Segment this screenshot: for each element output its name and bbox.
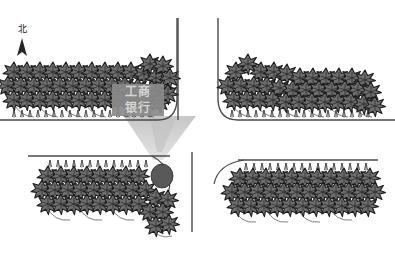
signboard: 工商 银行: [112, 84, 164, 116]
round-shrub: [151, 164, 173, 188]
tree-cluster-bottom-right: [221, 168, 385, 217]
planting-plan-canvas: 工商 银行: [0, 0, 395, 264]
signboard-line1: 工商: [125, 84, 151, 99]
canvas-background: [0, 0, 395, 264]
planting-plan-drawing: 工商 银行: [0, 0, 395, 264]
compass-label: 北: [18, 24, 27, 34]
signboard-line2: 银行: [125, 100, 151, 115]
